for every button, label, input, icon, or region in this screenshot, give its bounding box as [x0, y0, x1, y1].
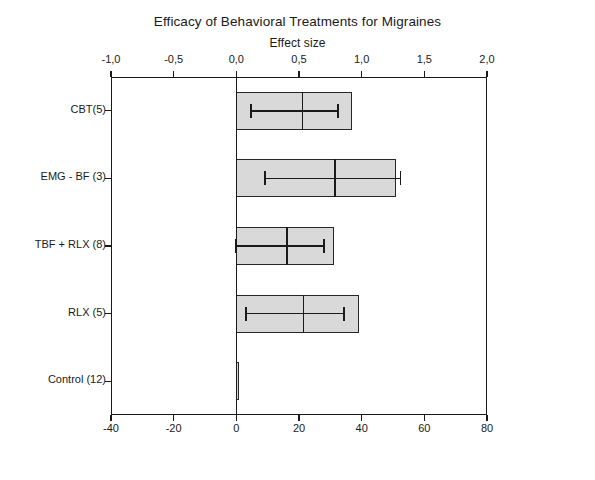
category-tick-mark	[105, 110, 111, 111]
bottom-tick-label: -40	[81, 422, 141, 434]
top-tick-label: 1,0	[332, 53, 392, 65]
bottom-tick-label: 60	[394, 422, 454, 434]
top-tick-label: 0,0	[206, 53, 266, 65]
error-bar-cap	[264, 171, 266, 185]
bottom-tick-mark	[236, 415, 237, 421]
zero-reference-line	[236, 77, 238, 415]
top-tick-label: 0,5	[269, 53, 329, 65]
error-bar-cap	[400, 171, 402, 185]
error-bar-line	[265, 178, 400, 180]
category-label: TBF + RLX (8)	[2, 238, 106, 250]
error-bar-cap	[245, 307, 247, 321]
top-tick-label: -0,5	[144, 53, 204, 65]
bottom-tick-label: 20	[269, 422, 329, 434]
chart-title: Efficacy of Behavioral Treatments for Mi…	[0, 14, 595, 29]
top-tick-label: -1,0	[81, 53, 141, 65]
bottom-tick-mark	[424, 415, 425, 421]
chart-figure: Efficacy of Behavioral Treatments for Mi…	[0, 0, 595, 480]
category-label: CBT(5)	[2, 103, 106, 115]
error-bar-line	[246, 313, 344, 315]
bottom-tick-label: 40	[332, 422, 392, 434]
top-tick-label: 1,5	[394, 53, 454, 65]
category-label: Control (12)	[2, 373, 106, 385]
category-tick-mark	[105, 245, 111, 246]
bottom-tick-label: 80	[457, 422, 517, 434]
category-label: EMG - BF (3)	[2, 170, 106, 182]
bottom-tick-label: 0	[206, 422, 266, 434]
category-tick-mark	[105, 178, 111, 179]
category-tick-mark	[105, 313, 111, 314]
error-bar-line	[251, 110, 337, 112]
bottom-tick-mark	[173, 415, 174, 421]
error-bar-cap	[250, 104, 252, 118]
error-bar-cap	[337, 104, 339, 118]
bottom-tick-mark	[361, 415, 362, 421]
category-label: RLX (5)	[2, 306, 106, 318]
category-tick-mark	[105, 381, 111, 382]
top-tick-label: 2,0	[457, 53, 517, 65]
error-bar-line	[236, 245, 324, 247]
bottom-tick-mark	[298, 415, 299, 421]
bottom-tick-mark	[110, 415, 111, 421]
bottom-tick-label: -20	[144, 422, 204, 434]
top-axis-title: Effect size	[0, 36, 595, 50]
error-bar-cap	[323, 239, 325, 253]
bottom-tick-mark	[486, 415, 487, 421]
error-bar-cap	[343, 307, 345, 321]
